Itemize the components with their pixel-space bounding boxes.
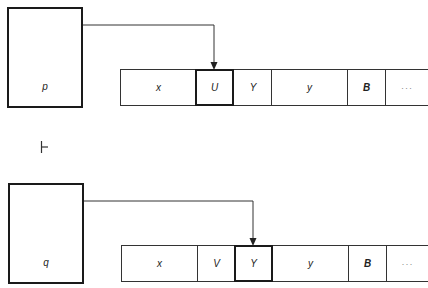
head-arrow-top	[83, 25, 218, 70]
head-pointer-arrows	[0, 0, 428, 288]
tape-cell-head: Y	[234, 245, 273, 282]
head-arrow-bottom	[84, 201, 257, 246]
tape-cell-head: U	[195, 69, 234, 106]
